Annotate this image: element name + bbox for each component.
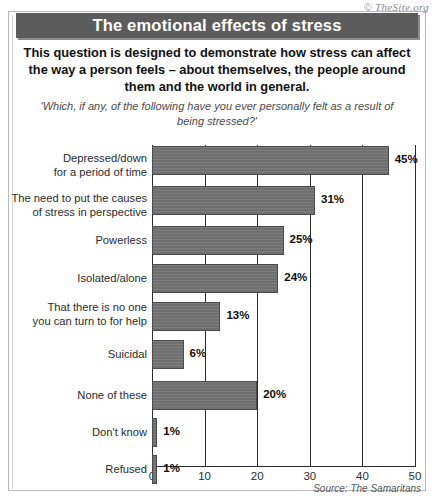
category-label: Depressed/down for a period of time [54,151,147,179]
gridline-50 [415,145,416,466]
bar-value-label: 1% [163,425,180,437]
bar [152,381,257,410]
category-label: Suicidal [108,347,147,361]
bar [152,455,157,484]
category-label: Powerless [95,233,147,247]
x-axis-line [152,466,416,467]
bar-value-label: 1% [163,462,180,474]
x-tick-label-50: 50 [409,470,422,482]
bar-value-label: 25% [290,233,313,245]
x-tick-label-10: 10 [198,470,211,482]
category-label: Don't know [92,425,147,439]
bar-value-label: 13% [226,309,249,321]
category-label: Refused [105,462,147,476]
category-label: Isolated/alone [77,271,147,285]
bar-value-label: 45% [395,153,418,165]
bar-value-label: 6% [190,347,207,359]
bar [152,418,157,447]
bar [152,340,184,369]
bar-value-label: 20% [263,388,286,400]
bar-chart: Depressed/down for a period of timeThe n… [0,0,435,499]
bar [152,264,278,293]
bar [152,186,315,215]
bar-value-label: 24% [284,271,307,283]
x-tick-label-40: 40 [356,470,369,482]
gridline-40 [362,145,363,466]
category-label: The need to put the causes of stress in … [11,191,147,219]
bar-value-label: 31% [321,193,344,205]
bar [152,226,284,255]
category-label-column: Depressed/down for a period of timeThe n… [0,0,147,499]
x-tick-label-20: 20 [251,470,264,482]
category-label: None of these [77,388,147,402]
bar [152,146,389,175]
source-note: Source: The Samaritans [313,483,421,494]
category-label: That there is no one you can turn to for… [33,300,147,328]
x-tick-label-30: 30 [303,470,316,482]
bar [152,302,220,331]
